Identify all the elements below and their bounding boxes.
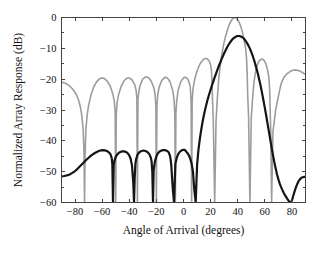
y-tick-label: 0 bbox=[51, 12, 56, 23]
x-tick-label: −40 bbox=[121, 206, 137, 217]
x-tick-label: 20 bbox=[205, 206, 216, 217]
x-tick-label: −80 bbox=[67, 206, 83, 217]
figure-container: −80−60−40−200204060800−10−20−30−40−50−60… bbox=[0, 0, 322, 253]
x-tick-label: 40 bbox=[232, 206, 243, 217]
y-tick-label: −60 bbox=[40, 197, 56, 208]
x-tick-label: 80 bbox=[287, 206, 298, 217]
plot-background bbox=[62, 18, 306, 203]
y-tick-label: −40 bbox=[40, 135, 56, 146]
x-axis-title: Angle of Arrival (degrees) bbox=[123, 224, 245, 237]
y-axis-title: Normalized Array Response (dB) bbox=[12, 33, 25, 187]
x-tick-label: −20 bbox=[148, 206, 164, 217]
y-tick-label: −30 bbox=[40, 105, 56, 116]
x-tick-label: −60 bbox=[94, 206, 110, 217]
array-response-chart: −80−60−40−200204060800−10−20−30−40−50−60… bbox=[0, 0, 322, 253]
x-tick-label: 0 bbox=[181, 206, 186, 217]
y-tick-label: −20 bbox=[40, 74, 56, 85]
x-tick-label: 60 bbox=[260, 206, 271, 217]
y-tick-label: −10 bbox=[40, 43, 56, 54]
y-tick-label: −50 bbox=[40, 166, 56, 177]
